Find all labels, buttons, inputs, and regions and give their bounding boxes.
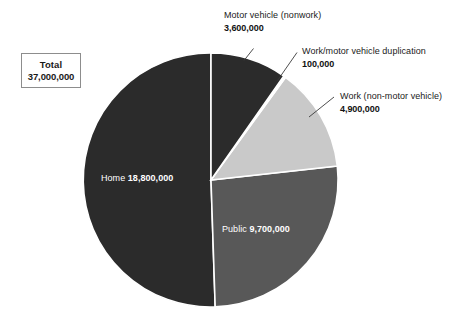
callout-motor-vehicle-title: Motor vehicle (nonwork) xyxy=(224,10,321,22)
slice-label-home-value: 18,800,000 xyxy=(128,173,174,183)
callout-work-nonmotor: Work (non-motor vehicle) 4,900,000 xyxy=(340,91,442,115)
pie-slice-public[interactable] xyxy=(211,166,338,307)
callout-duplication-title: Work/motor vehicle duplication xyxy=(302,46,426,58)
slice-label-public: Public 9,700,000 xyxy=(222,224,290,234)
callout-work-nonmotor-title: Work (non-motor vehicle) xyxy=(340,91,442,103)
total-value: 37,000,000 xyxy=(28,71,75,83)
slice-label-public-value: 9,700,000 xyxy=(249,224,290,234)
slice-label-public-name: Public xyxy=(222,224,249,234)
callout-duplication: Work/motor vehicle duplication 100,000 xyxy=(302,46,426,70)
callout-motor-vehicle: Motor vehicle (nonwork) 3,600,000 xyxy=(224,10,321,34)
pie-chart-figure: Total 37,000,000 Motor vehicle (nonwork)… xyxy=(0,0,463,335)
total-box: Total 37,000,000 xyxy=(21,53,81,88)
callout-duplication-value: 100,000 xyxy=(302,59,426,71)
slice-label-home-name: Home xyxy=(101,173,128,183)
total-label: Total xyxy=(40,59,63,71)
callout-work-nonmotor-value: 4,900,000 xyxy=(340,104,442,116)
leader-line-duplication xyxy=(278,53,298,81)
callout-motor-vehicle-value: 3,600,000 xyxy=(224,23,321,35)
slice-label-home: Home 18,800,000 xyxy=(101,173,173,183)
